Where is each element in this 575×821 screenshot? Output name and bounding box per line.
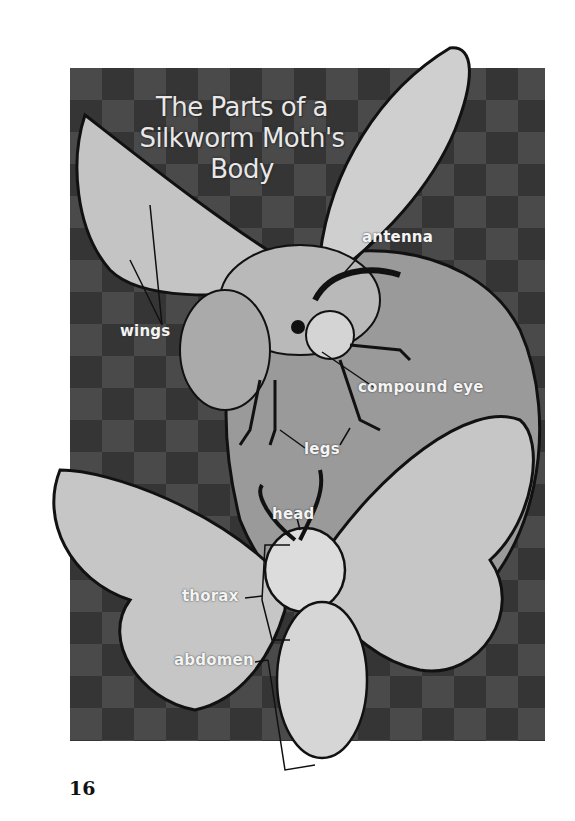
page-number: 16 (69, 777, 95, 799)
top-moth-head (306, 311, 354, 359)
title-line-1: The Parts of a (92, 92, 392, 123)
page-title: The Parts of a Silkworm Moth's Body (92, 92, 392, 185)
label-legs: legs (304, 440, 340, 458)
label-wings: wings (120, 322, 170, 340)
label-head: head (272, 505, 315, 523)
bottom-moth-abdomen (277, 602, 367, 758)
label-thorax: thorax (182, 587, 239, 605)
title-line-2: Silkworm Moth's (92, 123, 392, 154)
book-page: The Parts of a Silkworm Moth's Body wing… (0, 0, 575, 821)
compound-eye-shape (291, 320, 305, 334)
label-abdomen: abdomen (174, 651, 254, 669)
bottom-moth-thorax (265, 528, 345, 612)
label-antenna: antenna (362, 228, 433, 246)
title-line-3: Body (92, 154, 392, 185)
label-compound-eye: compound eye (358, 378, 484, 396)
